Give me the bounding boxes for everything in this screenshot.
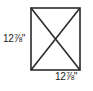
dimension-figure: 12⅞" 12⅞" bbox=[0, 0, 93, 91]
square-with-diagonals-drawing bbox=[0, 0, 93, 91]
width-dimension-label: 12⅞" bbox=[55, 71, 77, 82]
height-dimension-label: 12⅞" bbox=[3, 33, 25, 44]
